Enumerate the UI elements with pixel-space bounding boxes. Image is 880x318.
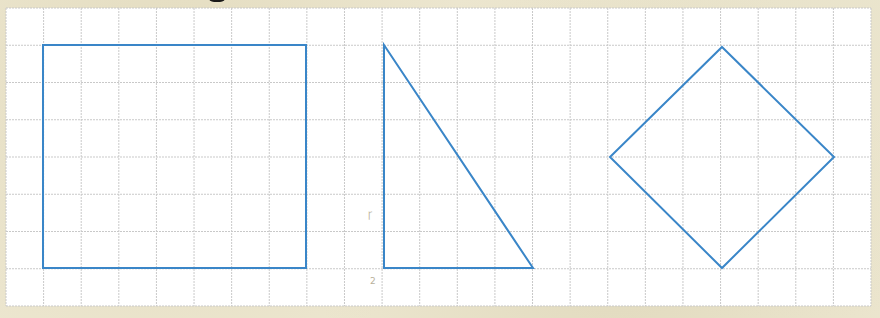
- pencil-mark: 2: [370, 276, 376, 286]
- figure: Ꞅ2: [0, 0, 880, 318]
- grid-paper-drawing: Ꞅ2: [0, 0, 880, 318]
